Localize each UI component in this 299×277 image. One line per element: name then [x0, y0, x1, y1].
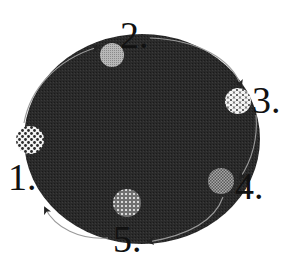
node-1-circle: [16, 126, 44, 154]
cycle-diagram: 1. 2. 3. 4. 5.: [0, 0, 299, 277]
node-3-label: 3.: [252, 79, 281, 121]
node-3-circle: [225, 88, 251, 114]
node-1-label: 1.: [8, 156, 37, 198]
node-5-label: 5.: [113, 218, 142, 260]
node-5: 5.: [113, 189, 142, 260]
node-5-circle: [113, 189, 141, 217]
main-body-ellipse: [24, 34, 260, 244]
node-4-circle: [208, 168, 234, 194]
node-2-label: 2.: [120, 14, 149, 56]
node-4-label: 4.: [235, 165, 264, 207]
